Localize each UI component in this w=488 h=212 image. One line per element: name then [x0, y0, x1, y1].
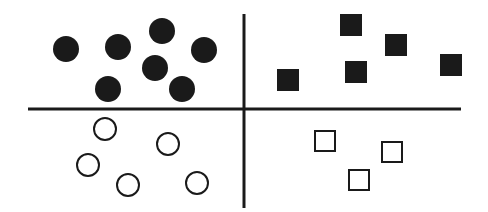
quadrant-bottom-left-open-circles [77, 118, 208, 196]
filled-square [385, 34, 407, 56]
filled-circle [53, 36, 79, 62]
filled-square [340, 14, 362, 36]
filled-circle [191, 37, 217, 63]
open-circle [186, 172, 208, 194]
filled-square [440, 54, 462, 76]
open-square [315, 131, 335, 151]
open-square [382, 142, 402, 162]
filled-circle [142, 55, 168, 81]
quadrant-top-left-filled-circles [53, 18, 217, 102]
open-circle [77, 154, 99, 176]
filled-circle [149, 18, 175, 44]
open-circle [117, 174, 139, 196]
filled-square [345, 61, 367, 83]
filled-circle [105, 34, 131, 60]
quadrant-bottom-right-open-squares [315, 131, 402, 190]
quadrant-top-right-filled-squares [277, 14, 462, 91]
open-square [349, 170, 369, 190]
filled-square [277, 69, 299, 91]
filled-circle [95, 76, 121, 102]
open-circle [157, 133, 179, 155]
filled-circle [169, 76, 195, 102]
open-circle [94, 118, 116, 140]
quadrant-diagram [0, 0, 488, 212]
